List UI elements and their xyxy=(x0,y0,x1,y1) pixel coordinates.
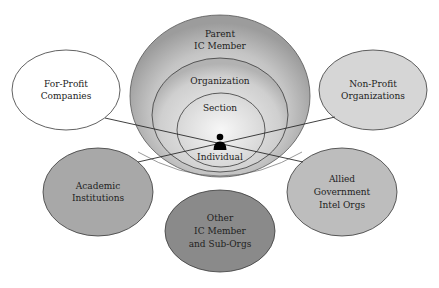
parent-ic-label-line-2: IC Member xyxy=(194,41,246,51)
non-profit-label-line-2: Organizations xyxy=(341,91,405,101)
satellite-for-profit-companies: For-Profit Companies xyxy=(12,50,120,130)
allied-label-line-1: Allied xyxy=(328,174,355,184)
satellite-non-profit-organizations: Non-Profit Organizations xyxy=(319,50,427,130)
allied-label-line-2: Government xyxy=(314,187,371,197)
academic-label-line-2: Institutions xyxy=(72,193,125,203)
academic-label-line-1: Academic xyxy=(75,181,120,191)
parent-ic-label-line-1: Parent xyxy=(205,29,235,39)
other-ic-label-line-1: Other xyxy=(207,213,234,223)
satellite-academic-institutions: Academic Institutions xyxy=(43,148,153,236)
organization-label: Organization xyxy=(190,76,250,86)
other-ic-label-line-2: IC Member xyxy=(194,226,246,236)
section-label: Section xyxy=(203,103,237,113)
allied-label-line-3: Intel Orgs xyxy=(319,200,365,210)
ic-relationship-diagram: For-Profit Companies Non-Profit Organiza… xyxy=(0,0,439,288)
for-profit-label-line-1: For-Profit xyxy=(44,79,88,89)
individual-label: Individual xyxy=(197,152,243,162)
other-ic-label-line-3: and Sub-Orgs xyxy=(189,239,252,249)
non-profit-label-line-1: Non-Profit xyxy=(349,79,397,89)
satellite-other-ic-member: Other IC Member and Sub-Orgs xyxy=(165,190,275,272)
satellite-allied-government-intel-orgs: Allied Government Intel Orgs xyxy=(287,148,397,236)
for-profit-label-line-2: Companies xyxy=(41,91,92,101)
